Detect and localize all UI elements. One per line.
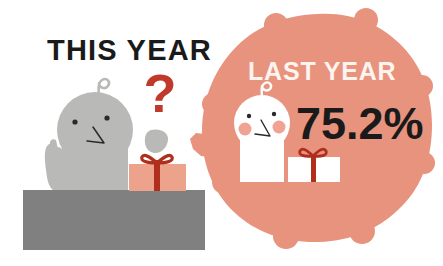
bubble-edge-bump [202,93,224,115]
gift-ribbon-vertical [311,154,316,182]
table-surface [23,190,205,250]
illustration-canvas: ? THIS YEAR LAST YEAR [0,0,443,266]
bubble-edge-bump [413,152,435,174]
question-mark-glyph: ? [144,63,177,123]
illustration-svg: ? THIS YEAR LAST YEAR [0,0,443,266]
last-year-heading: LAST YEAR [248,57,396,85]
gift-ribbon-vertical [154,160,160,191]
bubble-edge-bump [212,170,236,194]
bubble-edge-bump [264,13,288,37]
bubble-edge-bump [411,75,433,97]
character-eye-right [104,115,109,120]
this-year-character-group [45,79,133,190]
character-hand [45,144,66,190]
this-year-heading: THIS YEAR [47,34,212,66]
bubble-edge-bump [354,8,378,32]
bubble-edge-bump [349,218,375,244]
character-eye-left [247,114,251,118]
this-year-gift-group [129,155,186,191]
last-year-percentage: 75.2% [296,98,424,149]
bubble-edge-bump [273,223,299,249]
question-mark-group: ? [144,63,177,153]
character-eye-right [272,112,276,116]
character-cheek-right [273,121,286,134]
character-eye-left [72,119,77,124]
character-cheek-left [239,123,252,136]
thought-blob [145,129,168,153]
gift-bow [142,155,173,163]
